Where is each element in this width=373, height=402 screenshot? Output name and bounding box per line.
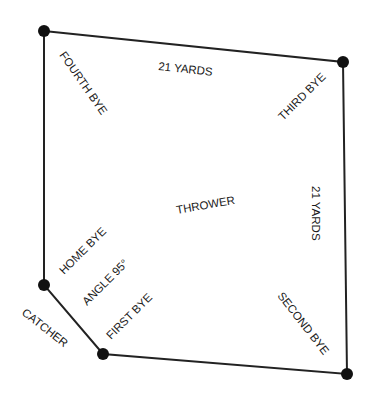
node-top-right bbox=[337, 56, 349, 68]
angle-label: ANGLE 95° bbox=[80, 257, 131, 308]
field-diagram: 21 YARDS 21 YARDS THROWER FOURTH BYE THI… bbox=[0, 0, 373, 402]
diagram-canvas: 21 YARDS 21 YARDS THROWER FOURTH BYE THI… bbox=[0, 0, 373, 402]
right-side-label: 21 YARDS bbox=[310, 186, 322, 241]
node-catcher bbox=[38, 279, 50, 291]
catcher-label: CATCHER bbox=[20, 306, 71, 349]
second-bye-label: SECOND BYE bbox=[275, 290, 331, 357]
node-first-base bbox=[97, 348, 109, 360]
fourth-bye-label: FOURTH BYE bbox=[57, 49, 109, 117]
node-bottom-right bbox=[341, 368, 353, 380]
node-top-left bbox=[38, 25, 50, 37]
home-bye-label: HOME BYE bbox=[57, 225, 109, 277]
top-side-label: 21 YARDS bbox=[158, 60, 214, 78]
third-bye-label: THIRD BYE bbox=[276, 70, 328, 122]
thrower-label: THROWER bbox=[175, 194, 236, 216]
first-bye-label: FIRST BYE bbox=[104, 291, 155, 342]
